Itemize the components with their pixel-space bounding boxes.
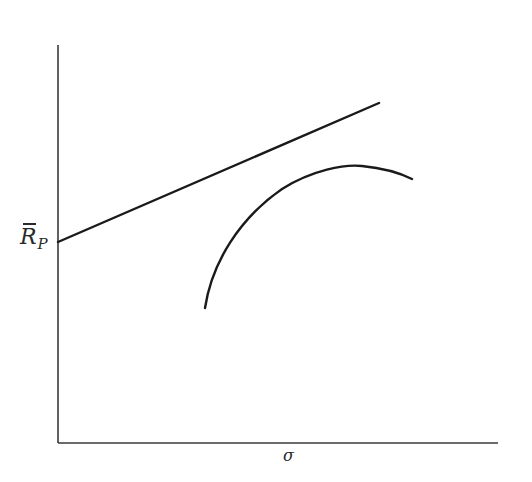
y-axis-label: RP <box>20 226 48 250</box>
x-axis-label: σ <box>283 448 294 464</box>
y-axis-label-subscript: P <box>38 235 48 253</box>
diagram-figure <box>0 0 532 482</box>
y-axis-label-main: R <box>20 226 37 248</box>
frontier-curve-series <box>205 166 412 308</box>
straight-line-series <box>58 103 379 242</box>
